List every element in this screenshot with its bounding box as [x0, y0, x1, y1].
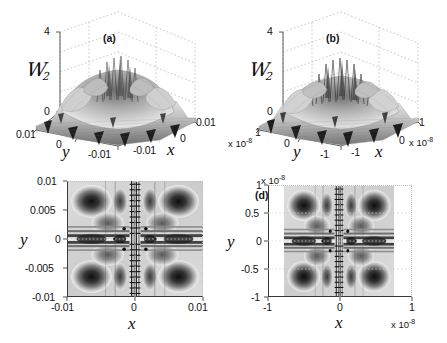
- panel-c: 0.01 0.005 0 -0.005 -0.01 y -0.01 0 0.01…: [0, 175, 224, 343]
- panel-d-xaxis-exponent-base: x 10: [391, 319, 409, 330]
- panel-d-xtick-1: 0: [337, 301, 343, 313]
- panel-d-ytick-1: 0.5: [245, 207, 259, 219]
- panel-d-ytick-0: 1: [256, 179, 262, 191]
- panel-b-xtick-max: 1: [419, 116, 425, 128]
- panel-c-ytick-0: 0.01: [37, 175, 57, 187]
- panel-d-yaxis-exponent: x 10-8: [261, 174, 285, 186]
- panel-d-ytick-2: 0: [256, 235, 262, 247]
- panel-b-ytick-bottom: -1: [320, 148, 329, 160]
- panel-c-xaxis-label: x: [128, 314, 136, 334]
- panel-d-xtick-0: -1: [263, 301, 272, 313]
- figure-canvas: (a) W2 4 0 0.01 0 -0.01 y -0.01 0 0.01 x: [0, 0, 447, 343]
- panel-c-plot-area: [67, 181, 203, 297]
- panel-a-tag: (a): [103, 32, 116, 44]
- panel-c-xtick-1: 0: [131, 301, 137, 313]
- panel-b-zaxis-subscript: 2: [265, 70, 273, 83]
- panel-b-zaxis-label: W2: [249, 58, 278, 80]
- panel-b-ztick-4: 4: [267, 25, 273, 37]
- panel-b: (b) W2 4 0 1 0 -1 x 10-8 y -1 0 1 x x 10…: [223, 0, 447, 172]
- panel-a-ytick-mid: 0: [56, 138, 62, 150]
- panel-b-ytick-mid: 0: [284, 137, 290, 149]
- panel-d-yaxis-exponent-base: x 10: [261, 175, 279, 186]
- panel-d-xaxis-exponent-power: -8: [409, 318, 415, 325]
- panel-a-xaxis-label: x: [167, 140, 175, 160]
- panel-a-zaxis-subscript: 2: [42, 70, 50, 83]
- panel-d-xaxis-exponent: x 10-8: [391, 318, 415, 330]
- panel-a-xtick-mid: 0: [180, 132, 186, 144]
- panel-b-yaxis-exponent-base: x 10: [228, 138, 246, 149]
- panel-c-yaxis-label: y: [20, 230, 28, 250]
- panel-b-xaxis-label: x: [375, 142, 383, 162]
- panel-d-xaxis-label: x: [335, 313, 343, 333]
- panel-a-zaxis-label: W2: [26, 58, 55, 80]
- panel-d-border: [268, 185, 412, 297]
- panel-c-xtick-2: 0.01: [188, 301, 208, 313]
- panel-b-ytick-top: 1: [255, 126, 261, 138]
- panel-b-yaxis-exponent-power: -8: [246, 137, 252, 144]
- panel-d-ytick-4: -1: [251, 291, 260, 303]
- panel-c-border: [67, 181, 203, 297]
- panel-b-xaxis-exponent: x 10-8: [409, 136, 433, 148]
- panel-a-ytick-top: 0.01: [16, 128, 36, 140]
- panel-b-yaxis-exponent: x 10-8: [228, 137, 252, 149]
- panel-b-ztick-0: 0: [267, 105, 273, 117]
- panel-d-yaxis-exponent-power: -8: [279, 174, 285, 181]
- panel-b-yaxis-label: y: [293, 142, 301, 162]
- panel-a-ztick-0: 0: [44, 105, 50, 117]
- panel-a-xtick-min: -0.01: [133, 144, 156, 156]
- panel-b-xaxis-exponent-base: x 10: [409, 137, 427, 148]
- panel-a-ztick-4: 4: [44, 25, 50, 37]
- panel-c-xtick-0: -0.01: [51, 301, 74, 313]
- panel-a-xtick-max: 0.01: [196, 116, 216, 128]
- panel-c-ytick-3: -0.005: [25, 262, 54, 274]
- panel-d-ytick-3: -0.5: [241, 263, 258, 275]
- panel-b-tag: (b): [326, 32, 339, 44]
- panel-a-surface: [0, 0, 224, 172]
- panel-a: (a) W2 4 0 0.01 0 -0.01 y -0.01 0 0.01 x: [0, 0, 224, 172]
- panel-b-xtick-min: -1: [351, 146, 360, 158]
- panel-c-ytick-2: 0: [55, 233, 61, 245]
- panel-d-xtick-2: 1: [409, 301, 415, 313]
- panel-a-yaxis-label: y: [62, 142, 70, 162]
- panel-c-ytick-1: 0.005: [30, 204, 55, 216]
- panel-d: (d) x 10-8 1 0.5 0 -0.5 -1 y -1 0 1 x x …: [223, 175, 447, 343]
- panel-d-yaxis-label: y: [227, 232, 235, 252]
- panel-d-plot-area: [268, 185, 412, 297]
- panel-a-ytick-bottom: -0.01: [88, 148, 111, 160]
- panel-b-xtick-mid: 0: [399, 134, 405, 146]
- panel-b-xaxis-exponent-power: -8: [427, 136, 433, 143]
